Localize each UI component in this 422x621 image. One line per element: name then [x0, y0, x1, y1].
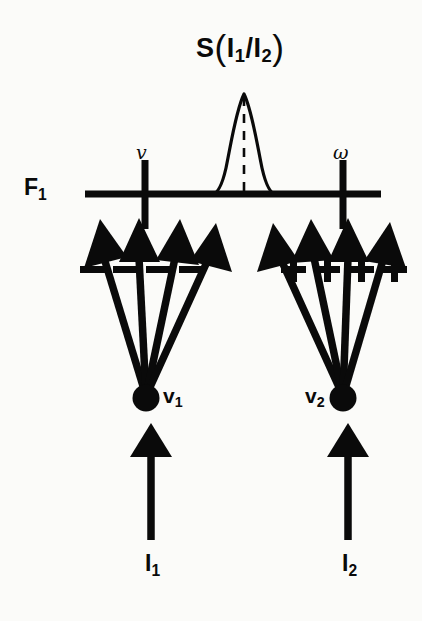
node-v2-dot — [330, 385, 357, 412]
fan-left-arrows — [84, 218, 232, 396]
title-s: S — [196, 33, 215, 63]
input-label-i2-sub: 2 — [348, 562, 357, 579]
tick-label-omega: ω — [333, 143, 349, 162]
input-label-i1-sub: 1 — [151, 562, 160, 579]
axis-label-letter: F — [24, 174, 38, 200]
axis-label-sub: 1 — [38, 186, 47, 203]
node-v1-dot — [133, 385, 160, 412]
signal-peak-curve — [212, 94, 276, 194]
axis-label: F1 — [24, 176, 47, 202]
minus-sign-4 — [179, 266, 205, 273]
title-close-paren: ) — [272, 28, 284, 67]
input-label-i1: I1 — [145, 552, 160, 578]
node-label-v1-letter: v — [163, 384, 175, 407]
input-label-i2: I2 — [342, 552, 357, 578]
node-label-v2: v2 — [305, 385, 325, 410]
input-arrow-i1 — [130, 423, 172, 540]
input-arrow-i2 — [327, 423, 369, 540]
title-open-paren: ( — [215, 28, 227, 67]
node-label-v1: v1 — [163, 385, 183, 410]
figure-title: S(I1/I2) — [196, 30, 284, 65]
tick-label-nu: v — [136, 143, 147, 162]
minus-sign-2 — [113, 266, 139, 273]
diagram-svg — [0, 0, 422, 621]
node-label-v2-sub: 2 — [317, 394, 325, 410]
node-label-v1-sub: 1 — [175, 394, 183, 410]
title-numerator-sub: 1 — [235, 45, 246, 66]
figure-canvas: S(I1/I2) F1 v ω v1 v2 I1 I2 — [0, 0, 422, 621]
minus-sign-1 — [80, 266, 106, 273]
title-numerator: I — [227, 33, 235, 63]
title-denominator-sub: 2 — [261, 45, 272, 66]
axis-group — [85, 160, 381, 229]
node-label-v2-letter: v — [305, 384, 317, 407]
minus-sign-3 — [146, 266, 172, 273]
signal-peak-group — [212, 94, 276, 196]
fan-right-arrows — [257, 218, 406, 396]
